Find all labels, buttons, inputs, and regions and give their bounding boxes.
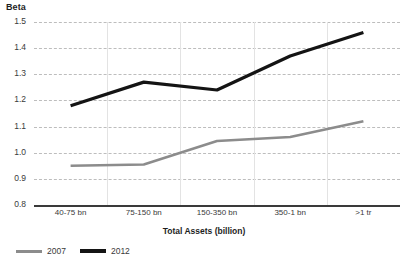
x-axis-title: Total Assets (billion) <box>0 226 408 236</box>
beta-vs-total-assets-line-chart: Beta 1.51.41.31.21.11.00.90.8 40-75 bn75… <box>0 0 408 268</box>
y-axis-tick-label: 1.1 <box>0 121 26 131</box>
series-line-2012 <box>71 32 364 105</box>
y-axis-tick-label: 1.3 <box>0 68 26 78</box>
y-axis-tick-label: 1.0 <box>0 147 26 157</box>
legend-item-2007[interactable]: 2007 <box>16 246 66 256</box>
series-line-2007 <box>71 121 364 165</box>
legend-swatch-icon <box>80 249 106 253</box>
y-axis-tick-label: 0.9 <box>0 173 26 183</box>
x-axis-tick-label: >1 tr <box>327 208 400 217</box>
legend-swatch-icon <box>16 250 42 253</box>
x-axis-tick-label: 350-1 bn <box>254 208 327 217</box>
y-axis-tick-label: 1.5 <box>0 16 26 26</box>
chart-legend: 20072012 <box>16 246 130 256</box>
x-axis-baseline <box>34 205 400 207</box>
y-axis-tick-label: 1.2 <box>0 94 26 104</box>
legend-label: 2007 <box>47 246 66 256</box>
y-axis-tick-label: 0.8 <box>0 199 26 209</box>
series-layer <box>34 22 400 205</box>
x-axis-tick-label: 150-350 bn <box>180 208 253 217</box>
x-axis-tick-label: 40-75 bn <box>34 208 107 217</box>
y-axis-title: Beta <box>6 2 26 12</box>
y-axis-tick-label: 1.4 <box>0 42 26 52</box>
legend-item-2012[interactable]: 2012 <box>80 246 130 256</box>
x-axis-tick-label: 75-150 bn <box>107 208 180 217</box>
legend-label: 2012 <box>111 246 130 256</box>
plot-area <box>34 22 400 205</box>
